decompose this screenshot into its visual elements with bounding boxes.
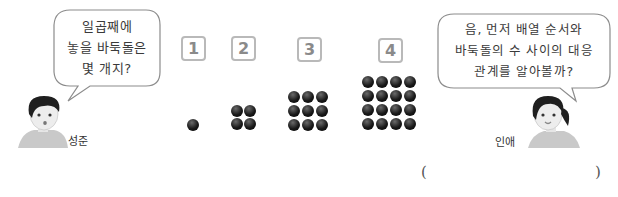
boy-name-label: 성준: [68, 132, 88, 148]
sequence-order-1-box: 1: [181, 36, 206, 61]
go-stone: [288, 105, 300, 117]
go-stone: [302, 105, 314, 117]
go-stone: [376, 90, 388, 102]
right-speech-text: 음, 먼저 배열 순서와 바둑돌의 수 사이의 대응 관계를 알아볼까?: [438, 19, 610, 82]
go-stone: [390, 104, 402, 116]
sequence-order-2-box: 2: [231, 36, 256, 61]
go-stone: [404, 76, 416, 88]
left-speech-line-1: 일곱째에: [54, 16, 160, 37]
go-stone: [316, 105, 328, 117]
go-stone: [187, 119, 199, 131]
go-stone: [390, 118, 402, 130]
answer-close-paren: ): [595, 163, 601, 181]
boy-character-icon: [14, 94, 70, 150]
go-stone: [288, 91, 300, 103]
left-speech-line-3: 몇 개지?: [54, 58, 160, 79]
go-stone: [362, 104, 374, 116]
go-stone: [316, 119, 328, 131]
answer-open-paren: (: [421, 163, 427, 181]
go-stone: [288, 119, 300, 131]
left-speech-text: 일곱째에 놓을 바둑돌은 몇 개지?: [54, 16, 160, 79]
go-stone: [231, 118, 243, 130]
girl-character-icon: [524, 94, 586, 150]
go-stone: [362, 90, 374, 102]
sequence-order-4-box: 4: [378, 38, 403, 63]
go-stone: [376, 104, 388, 116]
go-stone: [404, 90, 416, 102]
go-stone: [376, 118, 388, 130]
right-speech-line-3: 관계를 알아볼까?: [438, 61, 610, 82]
left-speech-line-2: 놓을 바둑돌은: [54, 37, 160, 58]
go-stone: [302, 91, 314, 103]
go-stone: [231, 105, 243, 117]
go-stone: [302, 119, 314, 131]
answer-blank[interactable]: [432, 163, 592, 183]
go-stone: [316, 91, 328, 103]
go-stone: [244, 118, 256, 130]
go-stone: [362, 118, 374, 130]
go-stone: [362, 76, 374, 88]
go-stone: [404, 104, 416, 116]
go-stone: [404, 118, 416, 130]
go-stone: [390, 90, 402, 102]
sequence-order-3-box: 3: [297, 37, 322, 62]
girl-name-label: 인애: [495, 133, 515, 149]
go-stone: [244, 105, 256, 117]
right-speech-line-2: 바둑돌의 수 사이의 대응: [438, 40, 610, 61]
right-speech-line-1: 음, 먼저 배열 순서와: [438, 19, 610, 40]
go-stone: [390, 76, 402, 88]
go-stone: [376, 76, 388, 88]
